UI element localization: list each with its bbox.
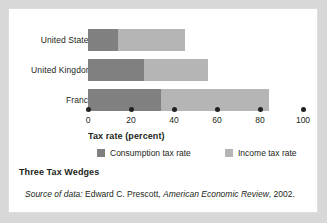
x-tick-label: 20 — [111, 115, 151, 125]
x-tick-mark — [301, 107, 306, 112]
x-tick-label: 60 — [197, 115, 237, 125]
source-label: Source of data: — [25, 189, 83, 199]
legend-swatch-icon — [225, 149, 233, 157]
x-tick-mark — [215, 107, 220, 112]
x-tick-mark — [86, 107, 91, 112]
chart-legend: Consumption tax rate Income tax rate — [97, 148, 307, 160]
legend-label: Income tax rate — [238, 148, 297, 158]
figure-title: Three Tax Wedges — [19, 167, 99, 177]
source-publication: American Economic Review — [163, 189, 269, 199]
legend-item-income: Income tax rate — [225, 148, 297, 158]
legend-item-consumption: Consumption tax rate — [97, 148, 191, 158]
category-label-united-states: United States — [0, 35, 93, 45]
source-author: Edward C. Prescott, — [83, 189, 163, 199]
bar-chart: United States United Kingdom France — [9, 9, 317, 212]
bar-segment-income — [144, 59, 209, 81]
bar-segment-consumption — [88, 29, 118, 51]
x-tick-label: 100 — [283, 115, 323, 125]
legend-label: Consumption tax rate — [110, 148, 191, 158]
source-note: Source of data: Edward C. Prescott, Amer… — [25, 189, 295, 199]
x-axis: 0 20 40 60 80 100 — [88, 107, 303, 133]
x-tick-label: 80 — [240, 115, 280, 125]
x-tick-label: 40 — [154, 115, 194, 125]
category-label-france: France — [0, 95, 93, 105]
legend-swatch-icon — [97, 149, 105, 157]
source-year: , 2002. — [269, 189, 295, 199]
bar-segment-income — [118, 29, 185, 51]
x-tick-label: 0 — [68, 115, 108, 125]
bar-segment-consumption — [88, 59, 144, 81]
category-label-united-kingdom: United Kingdom — [0, 65, 93, 75]
figure-page: United States United Kingdom France — [0, 0, 327, 223]
figure-card: United States United Kingdom France — [9, 9, 317, 212]
x-tick-mark — [129, 107, 134, 112]
x-axis-title: Tax rate (percent) — [88, 131, 165, 141]
x-tick-mark — [172, 107, 177, 112]
x-tick-mark — [258, 107, 263, 112]
